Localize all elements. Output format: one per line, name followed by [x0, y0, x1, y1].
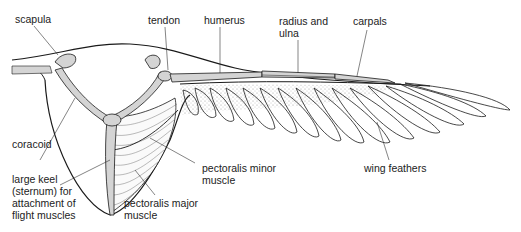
label-tendon: tendon — [148, 14, 180, 26]
label-scapula: scapula — [15, 13, 51, 25]
label-humerus: humerus — [204, 14, 245, 26]
scapula-bone — [55, 54, 76, 68]
label-pectoralis-minor: pectoralis minormuscle — [202, 162, 276, 186]
label-carpals: carpals — [353, 15, 387, 27]
bird-wing-anatomy-diagram — [0, 0, 521, 232]
label-radius-and-ulna: radius andulna — [279, 15, 328, 39]
label-large-keel-sternum: large keel(sternum) forattachment offlig… — [12, 173, 76, 221]
label-pectoralis-major: pectoralis majormuscle — [124, 197, 198, 221]
coracoid-bone — [55, 68, 112, 124]
label-wing-feathers: wing feathers — [364, 162, 426, 174]
label-coracoid: coracoid — [12, 138, 52, 150]
humerus-bone — [170, 72, 262, 82]
